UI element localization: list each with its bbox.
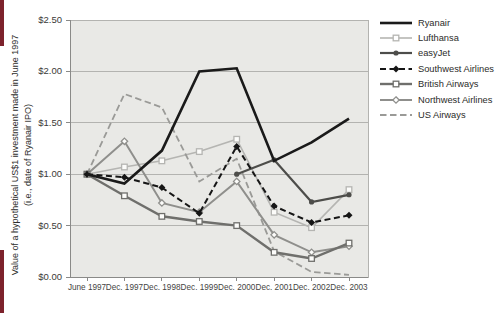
legend-swatch-icon: [379, 63, 413, 75]
legend-marker-icon: [393, 35, 399, 41]
y-tick-label: $0.50: [0, 220, 62, 231]
series-easyjet-marker: [234, 172, 239, 177]
legend-marker-icon: [393, 51, 398, 56]
legend-swatch-icon: [379, 32, 413, 44]
legend-row: easyJet: [379, 46, 494, 61]
legend: RyanairLufthansaeasyJetSouthwest Airline…: [379, 15, 494, 123]
legend-label: Ryanair: [418, 18, 450, 28]
legend-swatch-icon: [379, 78, 413, 90]
legend-swatch-icon: [379, 109, 413, 121]
y-tick-label: $0.00: [0, 271, 62, 282]
legend-swatch-icon: [379, 94, 413, 106]
legend-swatch-icon: [379, 17, 413, 29]
series-british-airways-marker: [234, 223, 240, 229]
y-tick-label: $2.00: [0, 65, 62, 76]
y-tick-label: $1.00: [0, 168, 62, 179]
series-british-airways-marker: [196, 219, 202, 225]
legend-row: Northwest Airlines: [379, 92, 494, 107]
series-british-airways-marker: [346, 240, 352, 246]
legend-swatch-icon: [379, 47, 413, 59]
legend-label: US Airways: [418, 110, 466, 120]
legend-row: British Airways: [379, 77, 494, 92]
legend-row: Southwest Airlines: [379, 61, 494, 76]
legend-marker-icon: [393, 81, 399, 87]
legend-marker-icon: [393, 65, 400, 72]
plot-background: [70, 20, 368, 277]
legend-label: Lufthansa: [418, 33, 459, 43]
y-tick-label: $1.50: [0, 117, 62, 128]
series-lufthansa-marker: [196, 149, 202, 155]
series-easyjet-marker: [309, 199, 314, 204]
series-lufthansa-marker: [122, 164, 128, 170]
y-tick-label: $2.50: [0, 14, 62, 25]
series-british-airways-marker: [309, 256, 315, 262]
series-lufthansa-marker: [234, 136, 240, 142]
series-lufthansa-marker: [159, 158, 165, 164]
legend-label: British Airways: [418, 79, 478, 89]
legend-row: Ryanair: [379, 15, 494, 30]
legend-label: Southwest Airlines: [418, 64, 494, 74]
figure-page: Value of a hypothetical US$1 investment …: [0, 0, 498, 313]
series-british-airways-marker: [271, 250, 277, 256]
legend-label: easyJet: [418, 48, 450, 58]
legend-label: Northwest Airlines: [418, 95, 492, 105]
x-tick-label: Dec. 2003: [325, 283, 373, 292]
legend-row: Lufthansa: [379, 30, 494, 45]
series-british-airways-marker: [159, 214, 165, 220]
series-lufthansa-marker: [346, 187, 352, 193]
legend-marker-icon: [393, 96, 399, 102]
series-british-airways-marker: [122, 193, 128, 199]
series-lufthansa-marker: [271, 209, 277, 215]
legend-row: US Airways: [379, 107, 494, 122]
series-easyjet-marker: [346, 192, 351, 197]
